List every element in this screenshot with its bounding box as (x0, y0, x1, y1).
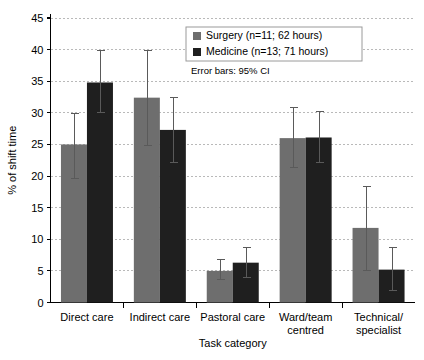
chart-container: 051015202530354045Direct careIndirect ca… (0, 0, 424, 360)
x-category-label: Direct care (60, 311, 113, 323)
y-tick-label: 5 (37, 265, 43, 277)
bar-medicine (233, 263, 259, 303)
y-tick-label: 45 (31, 12, 43, 24)
x-category-label: centred (287, 324, 324, 336)
bar-medicine (306, 137, 332, 302)
x-category-label: Pastoral care (200, 311, 265, 323)
legend-swatch (193, 32, 201, 40)
legend-label: Medicine (n=13; 71 hours) (206, 45, 328, 57)
y-tick-label: 20 (31, 170, 43, 182)
bar-medicine (160, 130, 186, 303)
x-category-label: Technical/ (354, 311, 404, 323)
y-tick-label: 10 (31, 233, 43, 245)
y-tick-label: 0 (37, 297, 43, 309)
legend-swatch (193, 48, 201, 56)
bar-surgery (353, 228, 379, 303)
y-axis-title: % of shift time (6, 126, 18, 195)
x-category-label: Ward/team (279, 311, 332, 323)
bar-surgery (61, 144, 87, 302)
bar-chart: 051015202530354045Direct careIndirect ca… (0, 0, 424, 360)
bar-medicine (87, 82, 113, 302)
y-tick-label: 30 (31, 107, 43, 119)
y-tick-label: 35 (31, 75, 43, 87)
y-tick-label: 15 (31, 202, 43, 214)
bar-surgery (207, 271, 233, 303)
y-tick-label: 40 (31, 44, 43, 56)
bar-surgery (280, 138, 306, 302)
x-category-label: specialist (356, 324, 401, 336)
legend-label: Surgery (n=11; 62 hours) (206, 29, 322, 41)
bar-surgery (134, 98, 160, 303)
error-bar-note: Error bars: 95% CI (191, 65, 270, 76)
x-axis-title: Task category (199, 337, 267, 349)
bar-medicine (379, 270, 405, 303)
x-category-label: Indirect care (130, 311, 191, 323)
y-tick-label: 25 (31, 138, 43, 150)
